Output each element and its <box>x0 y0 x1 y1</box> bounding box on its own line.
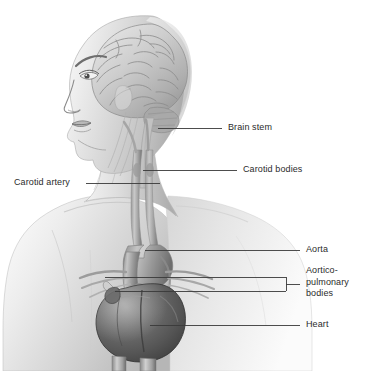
label-brain-stem: Brain stem <box>228 122 272 134</box>
carotid-body-left <box>133 163 141 177</box>
label-carotid-bodies: Carotid bodies <box>243 164 302 176</box>
label-aortico-pulmonary-bodies: Aortico- pulmonary bodies <box>306 265 349 300</box>
head-group <box>64 16 192 188</box>
right-shoulder <box>166 196 312 371</box>
anatomical-figure: Brain stem Carotid bodies Carotid artery… <box>0 0 381 371</box>
label-aorta: Aorta <box>306 244 328 256</box>
label-heart: Heart <box>306 319 329 331</box>
label-carotid-artery: Carotid artery <box>14 177 70 189</box>
heart-group <box>96 284 185 362</box>
